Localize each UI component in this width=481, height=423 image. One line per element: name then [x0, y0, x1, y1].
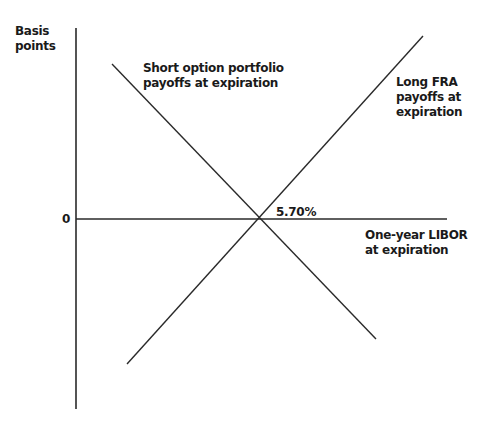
- long-fra-label-line: payoffs at: [396, 90, 462, 105]
- intersection-label: 5.70%: [276, 205, 316, 220]
- long-fra-label-line: Long FRA: [396, 75, 462, 90]
- y-axis-label-line: Basis: [15, 24, 56, 39]
- x-axis-label: One-year LIBOR at expiration: [365, 228, 468, 258]
- y-axis-label: Basis points: [15, 24, 56, 54]
- x-axis-label-line: One-year LIBOR: [365, 228, 468, 243]
- short-option-payoff-line: [112, 64, 376, 339]
- short-option-label: Short option portfolio payoffs at expira…: [143, 61, 284, 91]
- long-fra-label-line: expiration: [396, 105, 462, 120]
- short-option-label-line: Short option portfolio: [143, 61, 284, 76]
- y-axis-label-line: points: [15, 39, 56, 54]
- long-fra-label: Long FRA payoffs at expiration: [396, 75, 462, 120]
- short-option-label-line: payoffs at expiration: [143, 76, 284, 91]
- x-axis-label-line: at expiration: [365, 243, 468, 258]
- zero-label: 0: [62, 212, 70, 227]
